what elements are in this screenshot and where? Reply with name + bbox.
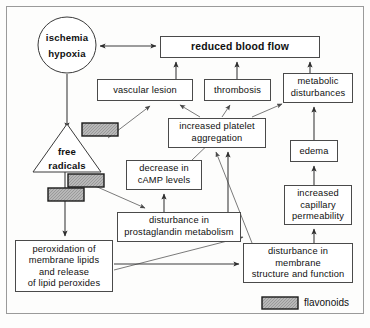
increased-capillary-permeability-label-line-3: permeability: [292, 211, 344, 221]
node-thrombosis[interactable]: thrombosis: [205, 80, 271, 101]
node-increased-capillary-permeability[interactable]: increased capillary permeability: [285, 186, 352, 225]
edema-label: edema: [299, 146, 329, 156]
disturbance-membrane-label-line-3: structure and function: [252, 269, 345, 279]
node-increased-platelet-aggregation[interactable]: increased platelet aggregation: [169, 119, 266, 148]
peroxidation-label-line-4: of lipid peroxides: [28, 278, 101, 288]
reduced-blood-flow-label: reduced blood flow: [191, 41, 290, 52]
edge-platelet-to-thrombosis: [222, 105, 230, 117]
peroxidation-label-line-1: peroxidation of: [32, 244, 96, 254]
node-metabolic-disturbances[interactable]: metabolic disturbances: [284, 74, 353, 103]
increased-platelet-aggregation-label-line-2: aggregation: [192, 133, 243, 143]
decrease-camp-levels-label-line-1: decrease in: [139, 163, 189, 173]
node-ischemia-hypoxia[interactable]: ischemia hypoxia: [38, 17, 96, 73]
free-radicals-label-line-1: free: [58, 146, 76, 157]
disturbance-membrane-label-line-2: membrane: [275, 258, 321, 268]
legend-flavonoids-label: flavonoids: [304, 297, 349, 308]
disturbance-prostaglandin-label-line-2: prostaglandin metabolism: [124, 227, 234, 237]
ischemia-hypoxia-label-line-2: hypoxia: [48, 48, 86, 59]
increased-platelet-aggregation-label-line-1: increased platelet: [179, 121, 255, 131]
flavonoid-marker-prostaglandin[interactable]: [68, 174, 104, 187]
peroxidation-label-line-2: membrane lipids: [29, 255, 100, 265]
node-reduced-blood-flow[interactable]: reduced blood flow: [161, 37, 320, 58]
free-radicals-label-line-2: radicals: [48, 160, 85, 171]
flavonoid-marker-peroxidation[interactable]: [48, 188, 84, 201]
node-vascular-lesion[interactable]: vascular lesion: [98, 80, 193, 101]
increased-capillary-permeability-label-line-2: capillary: [300, 200, 336, 210]
edge-platelet-to-metabolic: [252, 104, 282, 117]
vascular-lesion-label: vascular lesion: [113, 85, 177, 95]
disturbance-membrane-label-line-1: disturbance in: [268, 246, 328, 256]
disturbance-prostaglandin-label-line-1: disturbance in: [149, 215, 209, 225]
diagram-canvas: ischemia hypoxia reduced blood flow vasc…: [0, 0, 370, 328]
legend: flavonoids: [262, 297, 349, 309]
flavonoid-marker-vascular-lesion[interactable]: [82, 123, 118, 136]
thrombosis-label: thrombosis: [214, 85, 261, 95]
node-edema[interactable]: edema: [291, 141, 338, 162]
decrease-camp-levels-label-line-2: cAMP levels: [138, 175, 191, 185]
legend-flavonoids-swatch: [262, 297, 298, 309]
metabolic-disturbances-label-line-2: disturbances: [291, 88, 346, 98]
edge-platelet-to-vascular-lesion: [180, 105, 200, 117]
flowchart-svg: ischemia hypoxia reduced blood flow vasc…: [0, 0, 370, 328]
node-disturbance-membrane-structure[interactable]: disturbance in membrane structure and fu…: [244, 244, 353, 283]
peroxidation-label-line-3: and release: [39, 267, 89, 277]
increased-capillary-permeability-label-line-1: increased: [297, 188, 339, 198]
node-peroxidation-membrane-lipids[interactable]: peroxidation of membrane lipids and rele…: [16, 241, 113, 292]
ischemia-hypoxia-ellipse: [38, 17, 96, 73]
node-decrease-camp-levels[interactable]: decrease in cAMP levels: [127, 161, 202, 190]
metabolic-disturbances-label-line-1: metabolic: [297, 76, 338, 86]
node-disturbance-prostaglandin-metabolism[interactable]: disturbance in prostaglandin metabolism: [118, 213, 241, 242]
ischemia-hypoxia-label-line-1: ischemia: [46, 32, 89, 43]
